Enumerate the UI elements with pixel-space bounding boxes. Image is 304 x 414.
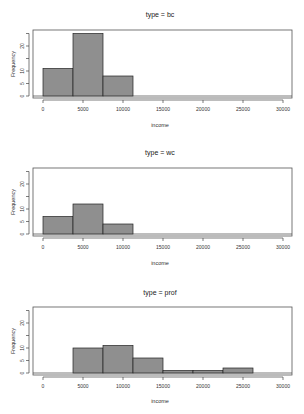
x-tick-label: 25000 <box>236 383 250 389</box>
histogram-bar <box>223 368 253 373</box>
y-tick-label: 0 <box>19 371 25 374</box>
y-tick-label: 5 <box>19 359 25 362</box>
x-tick-label: 20000 <box>196 244 210 250</box>
bars <box>33 346 292 374</box>
histogram-bar <box>103 76 133 96</box>
y-tick-label: 5 <box>19 220 25 223</box>
x-axis-label: income <box>151 260 169 266</box>
y-tick-label: 20 <box>19 320 25 326</box>
histogram-bar <box>73 34 103 97</box>
x-tick-label: 10000 <box>116 244 130 250</box>
panel-title: type = bc <box>146 11 175 19</box>
y-axis: 051020 <box>19 172 29 236</box>
x-axis: 050001000015000200002500030000 <box>42 377 291 389</box>
y-axis-label: Frequency <box>10 51 16 77</box>
panel-prof: type = prof 051020 050001000015000200002… <box>10 289 292 404</box>
y-tick-label: 10 <box>19 206 25 212</box>
x-tick-label: 30000 <box>276 244 290 250</box>
histogram-bar <box>43 217 73 235</box>
histogram-bar <box>43 69 73 97</box>
x-tick-label: 10000 <box>116 383 130 389</box>
x-tick-label: 15000 <box>156 383 170 389</box>
histogram-bar <box>73 204 103 234</box>
x-tick-label: 30000 <box>276 383 290 389</box>
y-axis-label: Frequency <box>10 189 16 215</box>
panel-title: type = wc <box>145 149 175 157</box>
y-tick-label: 5 <box>19 82 25 85</box>
bars <box>33 204 292 234</box>
panel-wc: type = wc 051020 05000100001500020000250… <box>10 149 292 266</box>
x-tick-label: 20000 <box>196 383 210 389</box>
y-tick-label: 0 <box>19 94 25 97</box>
histogram-bar <box>133 358 163 373</box>
y-axis: 051020 <box>19 311 29 375</box>
bars <box>33 34 292 97</box>
y-tick-label: 20 <box>19 43 25 49</box>
x-tick-label: 30000 <box>276 106 290 112</box>
x-tick-label: 20000 <box>196 106 210 112</box>
x-axis: 050001000015000200002500030000 <box>42 238 291 250</box>
y-tick-label: 10 <box>19 68 25 74</box>
y-axis: 051020 <box>19 34 29 98</box>
histogram-bar <box>73 348 103 373</box>
x-tick-label: 5000 <box>77 383 88 389</box>
y-tick-label: 20 <box>19 181 25 187</box>
x-tick-label: 0 <box>42 383 45 389</box>
panel-title: type = prof <box>143 289 176 297</box>
x-axis-label: income <box>151 398 169 404</box>
histogram-bar <box>193 371 223 374</box>
x-tick-label: 15000 <box>156 106 170 112</box>
x-tick-label: 0 <box>42 244 45 250</box>
y-axis-label: Frequency <box>10 328 16 354</box>
panel-bc: type = bc 051020 05000100001500020000250… <box>10 11 292 128</box>
histogram-bar <box>103 346 133 374</box>
y-tick-label: 0 <box>19 232 25 235</box>
x-tick-label: 15000 <box>156 244 170 250</box>
x-tick-label: 5000 <box>77 106 88 112</box>
x-axis-label: income <box>151 122 169 128</box>
x-tick-label: 5000 <box>77 244 88 250</box>
histogram-bar <box>103 224 133 234</box>
x-tick-label: 25000 <box>236 106 250 112</box>
x-tick-label: 0 <box>42 106 45 112</box>
histogram-bar <box>163 371 193 374</box>
x-tick-label: 25000 <box>236 244 250 250</box>
x-tick-label: 10000 <box>116 106 130 112</box>
y-tick-label: 10 <box>19 345 25 351</box>
histogram-figure: type = bc 051020 05000100001500020000250… <box>0 0 304 414</box>
x-axis: 050001000015000200002500030000 <box>42 100 291 112</box>
